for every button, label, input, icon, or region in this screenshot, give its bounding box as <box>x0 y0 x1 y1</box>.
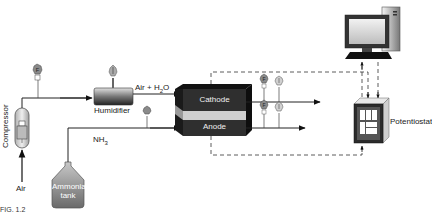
air-line <box>22 98 90 108</box>
compressor <box>15 108 29 148</box>
computer <box>345 7 400 59</box>
electrolyte-layer <box>183 111 246 120</box>
air-h2o-label: Air + H2O <box>135 83 169 94</box>
pressure-gauge-anode <box>275 102 283 128</box>
humidifier <box>94 65 133 105</box>
flow-meter-cathode: F <box>260 74 268 102</box>
pressure-gauge-nh3 <box>143 106 151 128</box>
nh3-label: NH3 <box>93 135 108 146</box>
compressor-label: Compressor <box>1 104 10 148</box>
flow-meter-air: F <box>33 64 42 98</box>
potentiostat-label: Potentiostat <box>390 117 432 126</box>
ammonia-tank-label: Ammonia tank <box>52 182 84 200</box>
potentiostat <box>354 98 389 143</box>
ammonia-tank-line1: Ammonia <box>52 182 84 191</box>
svg-text:F: F <box>262 76 265 82</box>
keyboard <box>345 52 392 59</box>
humidifier-label: Humidifier <box>94 106 130 115</box>
cathode-label: Cathode <box>183 95 246 104</box>
anode-label: Anode <box>183 122 246 131</box>
svg-text:F: F <box>262 102 265 108</box>
air-label: Air <box>16 184 26 193</box>
figure-caption: FIG. 1.2 <box>0 206 25 213</box>
nh3-line <box>68 128 180 162</box>
pressure-gauge-cathode <box>275 76 283 102</box>
flow-meter-anode: F <box>260 100 268 128</box>
ammonia-tank-line2: tank <box>52 191 84 200</box>
